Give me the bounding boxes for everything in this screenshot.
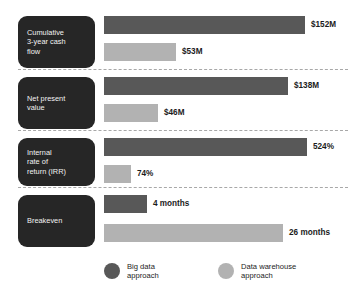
comparison-bar-chart: $152M$53M$138M$46M524%74%4 months26 mont… xyxy=(0,0,359,298)
legend-swatch-circle-icon xyxy=(104,263,120,279)
legend-label: Big dataapproach xyxy=(127,262,159,281)
bar-value-label: 74% xyxy=(137,165,153,183)
category-box: Internalrate ofreturn (IRR) xyxy=(18,138,95,186)
legend-item[interactable]: Big dataapproach xyxy=(104,262,159,281)
category-label: Cumulative3-year cashflow xyxy=(27,28,66,56)
category-box: Net presentvalue xyxy=(18,77,95,129)
bar-data-warehouse xyxy=(104,165,131,183)
bar-big-data xyxy=(104,195,147,213)
legend-swatch-circle-icon xyxy=(218,263,234,279)
bar-value-label: $46M xyxy=(164,104,184,122)
bar-value-label: 524% xyxy=(313,138,334,156)
bar-value-label: $138M xyxy=(294,77,319,95)
row-divider xyxy=(18,187,348,188)
category-label: Breakeven xyxy=(27,216,62,225)
category-label: Internalrate ofreturn (IRR) xyxy=(27,148,66,176)
legend-label: Data warehouseapproach xyxy=(241,262,296,281)
bar-big-data xyxy=(104,77,288,95)
bar-value-label: $152M xyxy=(311,16,336,34)
row-divider xyxy=(18,130,348,131)
category-label: Net presentvalue xyxy=(27,94,65,112)
chart-legend: Big dataapproachData warehouseapproach xyxy=(0,262,359,294)
bar-data-warehouse xyxy=(104,104,158,122)
row-divider xyxy=(18,69,348,70)
bar-value-label: 4 months xyxy=(153,195,189,213)
bar-value-label: 26 months xyxy=(289,224,330,242)
bar-big-data xyxy=(104,138,307,156)
bar-data-warehouse xyxy=(104,43,176,61)
category-box: Breakeven xyxy=(18,195,95,247)
bar-value-label: $53M xyxy=(182,43,202,61)
category-box: Cumulative3-year cashflow xyxy=(18,16,95,68)
bar-data-warehouse xyxy=(104,224,283,242)
legend-item[interactable]: Data warehouseapproach xyxy=(218,262,296,281)
bar-big-data xyxy=(104,16,305,34)
